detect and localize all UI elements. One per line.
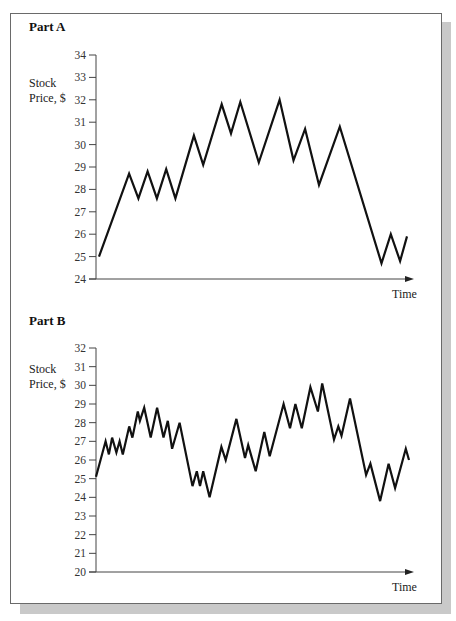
y-tick-label: 20 <box>75 566 87 578</box>
y-tick-label: 22 <box>75 529 87 541</box>
y-tick-label: 24 <box>75 273 87 285</box>
y-tick-label: 34 <box>75 49 87 61</box>
y-tick-label: 25 <box>75 251 87 263</box>
y-tick-label: 32 <box>75 342 87 354</box>
x-axis-arrow-icon <box>405 569 414 575</box>
y-tick-label: 21 <box>75 547 87 559</box>
part-b-chart: 20212223242526272829303132 <box>75 342 415 578</box>
y-tick-label: 31 <box>75 361 87 373</box>
y-tick-label: 29 <box>75 398 87 410</box>
y-tick-label: 26 <box>75 454 87 466</box>
charts-canvas: 2425262728293031323334 20212223242526272… <box>0 0 456 621</box>
y-tick-label: 32 <box>75 94 87 106</box>
y-tick-label: 23 <box>75 510 87 522</box>
y-tick-label: 29 <box>75 161 87 173</box>
y-tick-label: 28 <box>75 417 87 429</box>
y-tick-label: 27 <box>75 206 87 218</box>
part-a-chart: 2425262728293031323334 <box>75 49 415 285</box>
y-tick-label: 28 <box>75 183 87 195</box>
y-tick-label: 24 <box>75 491 87 503</box>
stock-price-line <box>99 100 407 263</box>
stock-price-line <box>96 384 409 502</box>
y-tick-label: 25 <box>75 473 87 485</box>
x-axis-arrow-icon <box>405 276 414 282</box>
y-tick-label: 26 <box>75 228 87 240</box>
y-tick-label: 27 <box>75 435 87 447</box>
y-tick-label: 30 <box>75 379 87 391</box>
y-tick-label: 33 <box>75 71 87 83</box>
y-tick-label: 30 <box>75 139 87 151</box>
y-tick-label: 31 <box>75 116 87 128</box>
